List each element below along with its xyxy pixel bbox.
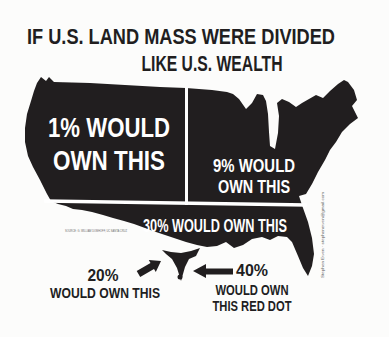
label-20pct-line-1: 20% <box>88 267 119 284</box>
label-1pct-line-1: 1% WOULD <box>48 113 170 143</box>
arrow-40pct-icon <box>193 264 233 278</box>
author-credit: Stephen Ewen · stephenewen@gmail.com <box>320 191 325 278</box>
source-credit: SOURCE: G. WILLIAM DOMHOFF, UC SANTA CRU… <box>65 229 127 233</box>
page-title-line-2: LIKE U.S. WEALTH <box>142 51 283 76</box>
label-20pct-line-2: WOULD OWN THIS <box>50 284 160 301</box>
label-1pct-line-2: OWN THIS <box>53 146 165 176</box>
label-9pct-line-1: 9% WOULD <box>213 156 295 176</box>
wealth-landmass-infographic: IF U.S. LAND MASS WERE DIVIDED LIKE U.S.… <box>0 0 389 337</box>
label-40pct-line-2: WOULD OWN <box>216 281 289 298</box>
red-dot <box>178 275 183 280</box>
us-map-silhouette <box>25 77 358 276</box>
infographic-page: IF U.S. LAND MASS WERE DIVIDED LIKE U.S.… <box>0 0 389 337</box>
label-30pct: 30% WOULD OWN THIS <box>143 216 287 236</box>
arrow-20pct-icon <box>137 260 161 277</box>
page-title-line-1: IF U.S. LAND MASS WERE DIVIDED <box>27 24 335 49</box>
label-40pct-line-1: 40% <box>236 262 268 279</box>
label-9pct-line-2: OWN THIS <box>218 177 290 197</box>
label-40pct-line-3: THIS RED DOT <box>213 297 292 314</box>
